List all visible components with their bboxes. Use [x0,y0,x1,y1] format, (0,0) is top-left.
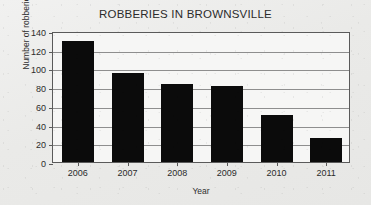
x-tick-mark [78,162,79,166]
bar [310,138,342,162]
gridline [53,127,349,128]
x-tick-mark [277,162,278,166]
gridline [53,70,349,71]
x-tick-mark [326,162,327,166]
bar [161,84,193,162]
y-tick-label: 80 [7,84,53,94]
y-tick-label: 0 [7,159,53,169]
y-tick-label: 100 [7,65,53,75]
x-tick-label: 2008 [153,168,201,178]
bar [211,86,243,162]
y-tick-label: 120 [7,47,53,57]
y-tick-label: 140 [7,28,53,38]
gridline [53,108,349,109]
x-tick-mark [227,162,228,166]
bar [261,115,293,162]
chart-title: ROBBERIES IN BROWNSVILLE [0,8,371,20]
gridline [53,89,349,90]
x-tick-mark [128,162,129,166]
bar [62,41,94,162]
gridline [53,145,349,146]
y-axis-label: Number of robberies [21,0,31,91]
x-tick-label: 2011 [302,168,350,178]
y-tick-label: 40 [7,122,53,132]
x-tick-label: 2009 [203,168,251,178]
y-tick-label: 60 [7,103,53,113]
x-tick-mark [177,162,178,166]
y-tick-label: 20 [7,140,53,150]
x-tick-label: 2006 [54,168,102,178]
gridline [53,52,349,53]
x-axis-label: Year [52,186,350,196]
plot-area: 020406080100120140 200620072008200920102… [52,32,350,163]
x-tick-label: 2010 [253,168,301,178]
bar-chart-figure: ROBBERIES IN BROWNSVILLE Number of robbe… [0,0,371,205]
bar [112,73,144,162]
x-tick-label: 2007 [104,168,152,178]
